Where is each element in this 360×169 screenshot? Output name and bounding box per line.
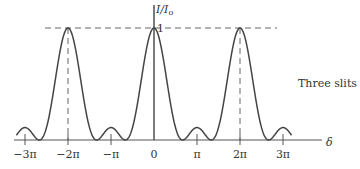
x-ticks: −3π−2π−π0π2π3π xyxy=(13,134,290,161)
x-axis-label: δ xyxy=(326,136,333,149)
x-tick-label: −π xyxy=(103,148,119,161)
x-tick-label: π xyxy=(193,148,200,161)
chart-svg: −3π−2π−π0π2π3π 1 I/Io δ Three slits xyxy=(0,0,360,169)
x-tick-label: 2π xyxy=(233,148,247,161)
x-tick-label: 0 xyxy=(151,148,158,161)
x-tick-label: −3π xyxy=(13,148,36,161)
y-axis-label: I/Io xyxy=(155,3,173,17)
x-tick-label: 3π xyxy=(276,148,290,161)
annotation-three-slits: Three slits xyxy=(298,77,357,90)
y-peak-label: 1 xyxy=(157,22,164,35)
x-tick-label: −2π xyxy=(56,148,79,161)
